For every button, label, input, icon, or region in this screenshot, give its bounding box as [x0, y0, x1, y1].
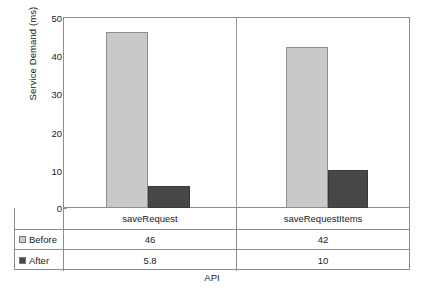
figure-container: Service Demand (ms) 50 40 30 20 10 0 sav… [0, 0, 421, 295]
value-after-saveRequest: 5.8 [64, 250, 237, 271]
data-table: saveRequest saveRequestItems Before 46 4… [14, 208, 410, 270]
y-tick-label-30: 30 [0, 90, 62, 100]
y-tick-label-10: 10 [0, 167, 62, 177]
legend-cell-empty [15, 208, 64, 229]
category-label-2: saveRequestItems [237, 208, 409, 229]
x-axis-title: API [14, 272, 410, 283]
y-tick-label-20: 20 [0, 129, 62, 139]
legend-entry-before: Before [15, 230, 64, 251]
legend-label-after: After [29, 255, 49, 266]
bar-before-saveRequestItems [286, 47, 328, 208]
category-label-1: saveRequest [64, 208, 237, 229]
table-row-before: Before 46 42 [15, 229, 409, 251]
bar-after-saveRequestItems [328, 170, 368, 208]
category-group-divider [236, 17, 237, 208]
value-after-saveRequestItems: 10 [237, 250, 409, 271]
bar-after-saveRequest [148, 186, 190, 208]
table-row-categories: saveRequest saveRequestItems [15, 208, 409, 229]
bar-before-saveRequest [106, 32, 148, 208]
legend-entry-after: After [15, 250, 64, 271]
value-before-saveRequestItems: 42 [237, 230, 409, 251]
legend-swatch-after-icon [19, 257, 26, 264]
table-row-after: After 5.8 10 [15, 249, 409, 271]
y-tick-label-40: 40 [0, 52, 62, 62]
y-tick-label-50: 50 [0, 14, 62, 24]
value-before-saveRequest: 46 [64, 230, 237, 251]
legend-label-before: Before [29, 234, 57, 245]
legend-swatch-before-icon [19, 236, 26, 243]
